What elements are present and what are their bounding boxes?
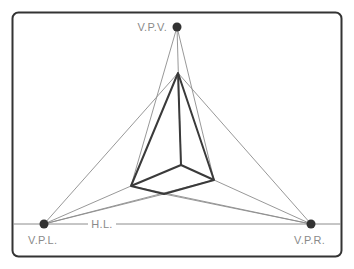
vpv-label: V.P.V. bbox=[137, 21, 167, 33]
vpl-point bbox=[40, 220, 49, 229]
guides-vpv bbox=[131, 27, 214, 186]
vpr-point bbox=[307, 220, 316, 229]
vpl-label: V.P.L. bbox=[28, 234, 57, 246]
hl-label: H.L. bbox=[91, 218, 112, 230]
vpv-point bbox=[173, 23, 182, 32]
guides-vpl bbox=[44, 73, 214, 224]
box bbox=[131, 73, 214, 194]
vpr-label: V.P.R. bbox=[294, 234, 325, 246]
perspective-diagram: H.L. V.P.V. V.P.L. V.P.R. bbox=[0, 0, 354, 269]
